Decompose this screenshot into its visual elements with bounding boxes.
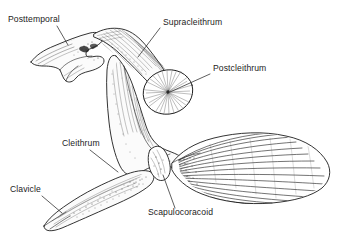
label-postcleithrum: Postcleithrum: [213, 63, 266, 73]
pectoral-girdle-drawing: Posttemporal Supracleithrum Postcleithru…: [0, 0, 337, 239]
leader-clavicle: [42, 196, 62, 213]
label-clavicle: Clavicle: [10, 184, 41, 194]
leader-cleithrum: [90, 150, 118, 172]
clavicle-bone: [44, 171, 154, 231]
label-posttemporal: Posttemporal: [8, 14, 60, 24]
label-cleithrum: Cleithrum: [62, 138, 100, 148]
pectoral-fin: [172, 133, 330, 204]
anatomical-figure: Posttemporal Supracleithrum Postcleithru…: [0, 0, 337, 239]
leader-scapulocoracoid: [163, 175, 175, 208]
label-scapulocoracoid: Scapulocoracoid: [148, 207, 213, 217]
posttemporal-bone: [31, 32, 104, 82]
label-supracleithrum: Supracleithrum: [163, 17, 222, 27]
